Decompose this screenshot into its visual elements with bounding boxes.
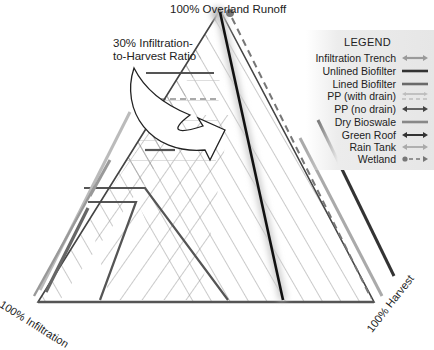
legend-item-infiltration-trench: Infiltration Trench bbox=[315, 51, 434, 64]
legend-title: LEGEND bbox=[344, 36, 391, 48]
dot-dash-arrow-icon bbox=[402, 154, 428, 164]
solid-line-icon bbox=[402, 66, 428, 76]
ratio-label: 30% Infiltration- to-Harvest Ratio bbox=[113, 37, 196, 63]
double-arrow-icon bbox=[402, 142, 428, 152]
solid-line-icon bbox=[402, 79, 428, 89]
double-arrow-icon bbox=[402, 104, 428, 114]
apex-label: 100% Overland Runoff bbox=[170, 3, 286, 15]
double-arrow-icon bbox=[402, 53, 428, 63]
legend: LEGEND Infiltration Trench Unlined Biofi… bbox=[306, 30, 434, 170]
ratio-label-line1: 30% Infiltration- bbox=[113, 37, 196, 50]
legend-item-wetland: Wetland bbox=[358, 152, 434, 165]
dashed-double-arrow-icon bbox=[402, 91, 428, 101]
legend-item-pp-with-drain: PP (with drain) bbox=[327, 89, 434, 102]
legend-item-unlined-biofilter: Unlined Biofilter bbox=[322, 64, 434, 77]
solid-line-icon bbox=[402, 117, 428, 127]
ratio-label-line2: to-Harvest Ratio bbox=[113, 50, 196, 63]
double-arrow-icon bbox=[402, 130, 428, 140]
legend-item-dry-bioswale: Dry Bioswale bbox=[335, 115, 434, 128]
legend-item-pp-no-drain: PP (no drain) bbox=[334, 102, 434, 115]
